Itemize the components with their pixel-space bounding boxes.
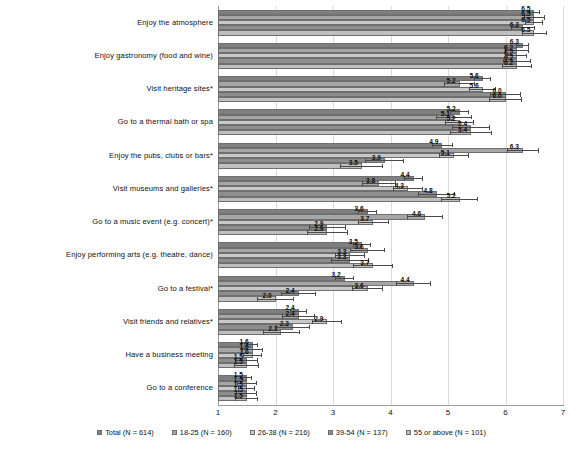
value-label-5-0: 4.4: [401, 171, 410, 178]
bar-5-4: [218, 197, 460, 202]
value-label-9-4: 2.1: [268, 325, 277, 332]
value-label-10-4: 1.5: [234, 358, 243, 365]
legend-item[interactable]: 39-54 (N = 137): [328, 428, 388, 437]
legend-swatch-icon: [406, 430, 411, 435]
x-tick-label: 2: [273, 408, 277, 417]
category-label: Enjoy performing arts (e.g. theatre, dan…: [66, 250, 213, 259]
category-label: Visit museums and galleries*: [113, 184, 213, 193]
value-label-2-4: 6.0: [493, 92, 502, 99]
value-label-8-4: 2.0: [263, 292, 272, 299]
value-label-6-4: 2.9: [314, 225, 323, 232]
legend-swatch-icon: [97, 430, 102, 435]
value-label-9-3: 2.3: [280, 320, 289, 327]
x-tick-label: 4: [388, 408, 392, 417]
category-label: Enjoy gastronomy (food and wine): [95, 51, 213, 60]
error-bar-3-4: [450, 130, 493, 135]
value-label-2-1: 5.2: [447, 77, 456, 84]
gridline-7: [563, 6, 564, 405]
value-label-0-2: 6.5: [521, 16, 530, 23]
value-label-8-0: 3.2: [332, 271, 341, 278]
legend-label: Total (N = 614): [105, 428, 154, 437]
value-label-4-4: 3.5: [349, 159, 358, 166]
value-label-0-4: 6.5: [521, 26, 530, 33]
legend-item[interactable]: 26-38 (N = 216): [250, 428, 310, 437]
legend-swatch-icon: [172, 430, 177, 435]
value-label-7-4: 3.7: [360, 259, 369, 266]
bar-7-4: [218, 263, 373, 268]
category-label: Enjoy the pubs, clubs or bars*: [109, 151, 213, 160]
value-label-6-2: 3.7: [360, 215, 369, 222]
value-label-0-3: 6.3: [510, 21, 519, 28]
chart-legend: Total (N = 614)18-25 (N = 160)26-38 (N =…: [0, 428, 583, 437]
legend-label: 26-38 (N = 216): [258, 428, 310, 437]
bar-3-4: [218, 130, 471, 135]
category-label: Visit friends and relatives*: [123, 317, 213, 326]
legend-item[interactable]: 18-25 (N = 160): [172, 428, 232, 437]
category-label: Visit heritage sites*: [146, 84, 213, 93]
x-tick-label: 3: [331, 408, 335, 417]
error-bar-7-4: [353, 263, 393, 268]
x-axis-tick-labels: 1234567: [218, 408, 564, 422]
category-label: Enjoy the atmosphere: [137, 18, 213, 27]
x-tick-label: 5: [446, 408, 450, 417]
value-label-4-3: 3.9: [372, 154, 381, 161]
value-label-3-2: 5.2: [447, 115, 456, 122]
category-label: Go to a music event (e.g. concert)*: [92, 217, 213, 226]
plot-area: 6.56.56.56.36.56.36.26.26.26.25.65.25.66…: [218, 6, 563, 405]
value-label-8-2: 3.6: [355, 282, 364, 289]
value-label-5-4: 5.2: [447, 192, 456, 199]
category-label: Go to a festival*: [158, 284, 213, 293]
x-tick-label: 1: [216, 408, 220, 417]
x-axis-line: [218, 405, 564, 406]
category-label: Have a business meeting: [125, 350, 213, 359]
value-label-4-1: 6.3: [510, 143, 519, 150]
value-label-6-1: 4.6: [412, 210, 421, 217]
category-label: Go to a thermal bath or spa: [118, 117, 213, 126]
value-label-11-4: 1.5: [234, 392, 243, 399]
legend-label: 39-54 (N = 137): [336, 428, 388, 437]
value-label-3-4: 5.4: [458, 126, 467, 133]
x-tick-label: 7: [561, 408, 565, 417]
value-label-8-1: 4.4: [401, 276, 410, 283]
value-label-6-0: 3.6: [355, 205, 364, 212]
value-label-9-1: 2.4: [286, 310, 295, 317]
legend-label: 18-25 (N = 160): [180, 428, 232, 437]
value-label-1-4: 6.2: [504, 59, 513, 66]
x-tick-label: 6: [503, 408, 507, 417]
error-bar-4-4: [340, 163, 383, 168]
value-label-5-1: 3.8: [366, 177, 375, 184]
legend-swatch-icon: [328, 430, 333, 435]
chart-container: 6.56.56.56.36.56.36.26.26.26.25.65.25.66…: [0, 0, 583, 453]
value-label-2-2: 5.6: [470, 82, 479, 89]
value-label-4-0: 4.9: [429, 138, 438, 145]
value-label-5-2: 4.3: [395, 182, 404, 189]
value-label-7-3: 3.3: [337, 253, 346, 260]
error-bar-6-4: [307, 230, 348, 235]
legend-swatch-icon: [250, 430, 255, 435]
value-label-7-1: 3.6: [355, 243, 364, 250]
value-label-8-3: 2.4: [286, 287, 295, 294]
bar-0-4: [218, 30, 534, 35]
category-label: Go to a conference: [147, 383, 213, 392]
value-label-9-2: 2.9: [314, 315, 323, 322]
value-label-4-2: 5.1: [441, 149, 450, 156]
legend-label: 55 or above (N = 101): [414, 428, 486, 437]
bar-1-4: [218, 64, 517, 69]
legend-item[interactable]: Total (N = 614): [97, 428, 154, 437]
legend-item[interactable]: 55 or above (N = 101): [406, 428, 486, 437]
value-label-2-0: 5.6: [470, 72, 479, 79]
value-label-5-3: 4.8: [424, 187, 433, 194]
bar-2-4: [218, 97, 506, 102]
